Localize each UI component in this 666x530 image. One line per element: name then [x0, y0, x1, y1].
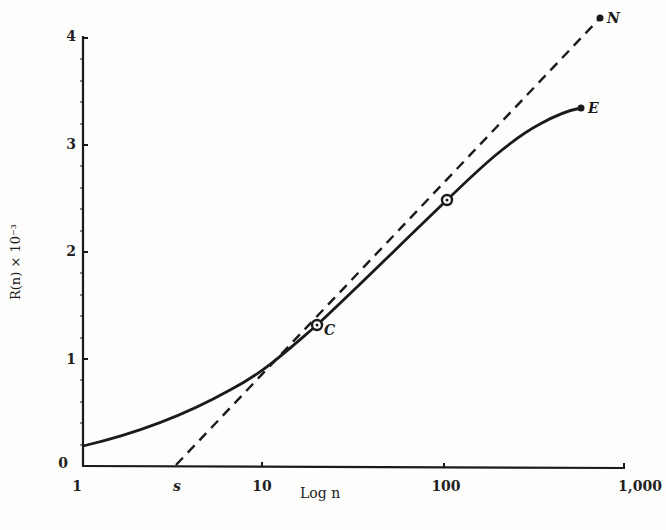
y-axis-title: R(n) × 10⁻³	[8, 224, 23, 300]
dashed-asymptote-line	[176, 18, 600, 465]
label-e: E	[588, 100, 599, 116]
x-tick-1000: 1,000	[610, 478, 666, 494]
solid-curve	[83, 108, 581, 446]
point-100-center	[446, 199, 449, 202]
y-tick-1: 1	[56, 351, 76, 367]
x-tick-100: 100	[416, 478, 476, 494]
label-c: C	[324, 322, 335, 338]
x-axis	[82, 466, 624, 468]
point-n-dot	[597, 15, 604, 22]
point-c-center	[316, 324, 319, 327]
x-tick-1: 1	[47, 478, 107, 494]
x-axis-title: Log n	[300, 485, 340, 501]
x-tick-10: 10	[232, 478, 292, 494]
y-tick-2: 2	[56, 243, 76, 259]
y-tick-4: 4	[56, 28, 76, 44]
label-n: N	[607, 10, 620, 26]
y-tick-0: 0	[48, 455, 68, 471]
point-e-dot	[578, 105, 585, 112]
y-tick-3: 3	[56, 136, 76, 152]
x-tick-s: s	[147, 478, 207, 494]
